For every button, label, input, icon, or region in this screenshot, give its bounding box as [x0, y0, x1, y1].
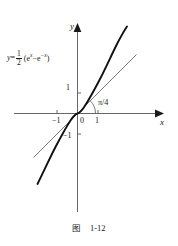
sinh-curve: [38, 27, 128, 185]
equation-rhs-close: ): [47, 54, 50, 63]
equation-label: y= 1 2 (ex−e−x): [7, 50, 49, 66]
y-tick-label-pos1: 1: [66, 84, 70, 92]
figure-container: y= 1 2 (ex−e−x) y x −1 1 0 1 −1 π/4 图 1-…: [0, 0, 178, 246]
y-axis-label: y: [70, 22, 74, 31]
x-tick-label-pos1: 1: [95, 117, 99, 125]
angle-label: π/4: [98, 99, 108, 107]
fraction-denominator: 2: [16, 59, 22, 67]
equation-rhs: (ex−e−x): [24, 53, 50, 63]
fraction-numerator: 1: [16, 50, 22, 58]
figure-caption: 图 1-12: [0, 224, 178, 233]
origin-label: 0: [80, 117, 84, 125]
equation-equals-sign: =: [11, 54, 16, 62]
equation-fraction: 1 2: [16, 50, 22, 66]
x-tick-label-neg1: −1: [52, 117, 61, 125]
plot-canvas: [0, 0, 178, 246]
angle-arc: [90, 101, 95, 114]
x-axis-label: x: [160, 118, 164, 127]
x-axis: [14, 110, 164, 118]
equation-rhs-minus: −e: [33, 54, 41, 63]
y-axis-arrowhead: [74, 23, 82, 32]
y-tick-label-neg1: −1: [63, 132, 72, 140]
